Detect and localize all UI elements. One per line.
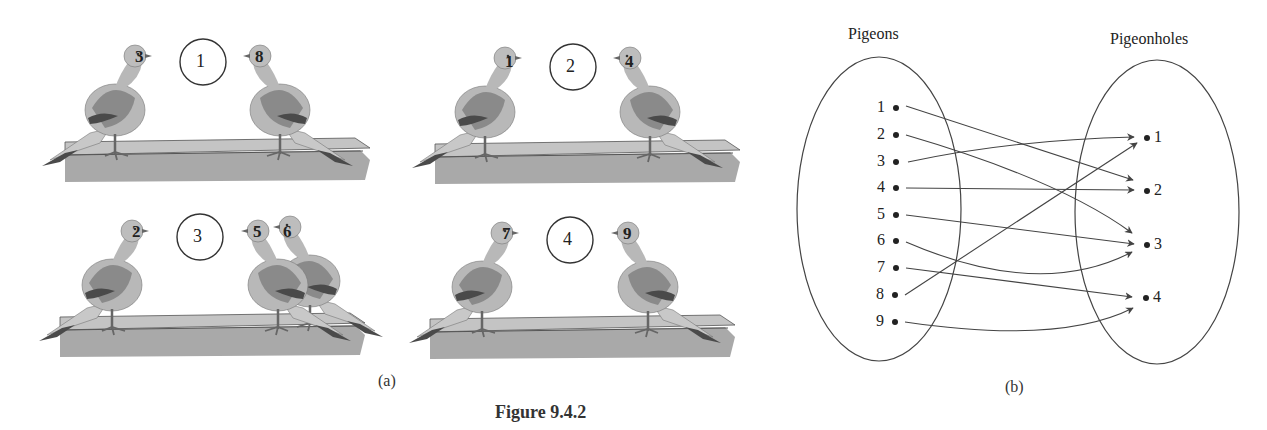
pigeonhole-dots <box>1143 135 1150 301</box>
pigeon-number: 1 <box>877 98 885 116</box>
pigeonhole-number: 1 <box>1154 128 1162 146</box>
panel-b-mapping-diagram: Pigeons Pigeonholes 1 2 3 4 5 6 7 8 9 1 … <box>780 0 1267 400</box>
perch-scene-icon <box>395 22 765 197</box>
mapping-diagram <box>780 0 1267 400</box>
pigeon-label: 1 <box>505 52 514 72</box>
panel-b-caption: (b) <box>1005 378 1024 396</box>
pigeon-number: 8 <box>876 285 884 303</box>
pigeonholes-label: Pigeonholes <box>1110 30 1188 48</box>
perch-scene-icon <box>25 195 405 370</box>
pigeon-number: 9 <box>876 312 884 330</box>
pigeon-number: 4 <box>877 178 885 196</box>
pigeonhole-number: 4 <box>1153 288 1161 306</box>
pigeon-label: 7 <box>502 224 511 244</box>
pigeon-label: 9 <box>623 224 632 244</box>
pigeon-dots <box>892 105 899 325</box>
hole-label: 3 <box>193 226 202 247</box>
panel-a-caption: (a) <box>378 372 396 390</box>
pigeonhole-cell-2: 2 1 4 <box>395 22 765 197</box>
pigeon-label: 6 <box>283 222 292 242</box>
pigeon-number: 7 <box>877 258 885 276</box>
perch-scene-icon <box>395 197 765 372</box>
perch-scene-icon <box>25 20 395 195</box>
figure-title: Figure 9.4.2 <box>495 402 586 423</box>
pigeon-number: 2 <box>877 125 885 143</box>
pigeon-label: 4 <box>625 52 634 72</box>
mapping-arrows <box>905 106 1137 331</box>
pigeonhole-cell-3: 3 2 5 6 <box>25 195 395 370</box>
pigeon-label: 2 <box>132 222 141 242</box>
pigeon-label: 8 <box>255 47 264 67</box>
pigeon-number: 5 <box>877 205 885 223</box>
hole-label: 2 <box>566 56 575 77</box>
hole-label: 4 <box>563 229 572 250</box>
pigeonhole-cell-4: 4 7 9 <box>395 197 765 372</box>
pigeonhole-number: 2 <box>1154 181 1162 199</box>
pigeon-number: 3 <box>877 152 885 170</box>
pigeon-label: 5 <box>253 222 262 242</box>
pigeons-label: Pigeons <box>848 25 899 43</box>
pigeonhole-cell-1: 1 3 8 <box>25 20 395 195</box>
hole-label: 1 <box>196 51 205 72</box>
pigeon-label: 3 <box>135 47 144 67</box>
panel-a-pigeonholes-illustration: 1 3 8 2 1 4 3 2 5 6 <box>0 0 780 400</box>
pigeonhole-number: 3 <box>1154 235 1162 253</box>
pigeon-number: 6 <box>877 231 885 249</box>
